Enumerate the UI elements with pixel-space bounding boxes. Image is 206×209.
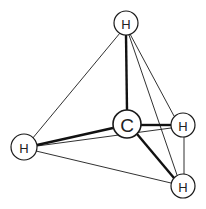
bond-c-left	[37, 128, 113, 145]
methane-tetrahedron-diagram: H C H H H	[0, 0, 206, 209]
diagram-canvas: H C H H H	[0, 0, 206, 209]
atom-bottom-h: H	[171, 174, 195, 198]
edge-left-bottom	[36, 151, 171, 183]
bond-c-top	[126, 35, 127, 110]
edge-top-left	[32, 33, 120, 139]
atom-label: H	[178, 119, 187, 134]
atom-right-h: H	[171, 113, 195, 137]
atom-label: H	[121, 17, 130, 32]
tetrahedron-edges	[32, 33, 184, 183]
atom-label: C	[120, 115, 134, 136]
atom-label: H	[19, 141, 28, 156]
atom-left-h: H	[11, 134, 37, 160]
edge-top-right	[130, 34, 174, 116]
atom-top-h: H	[114, 11, 138, 35]
bond-c-bottom	[137, 134, 174, 178]
atom-label: H	[178, 180, 187, 195]
atom-carbon: C	[113, 110, 141, 138]
